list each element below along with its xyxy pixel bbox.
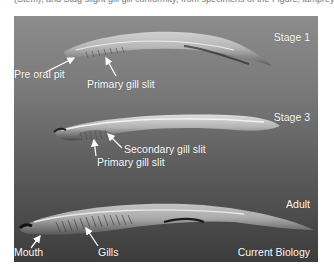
cutoff-caption-text: (Stem), and Stag slight gill gill confor…	[14, 0, 334, 4]
arrow-primary-gill-slit-1	[106, 58, 116, 76]
adult-label: Adult	[286, 198, 310, 210]
arrow-secondary-gill-slit	[108, 134, 122, 148]
arrow-primary-gill-slit-3	[94, 140, 96, 156]
stage-1-label: Stage 1	[274, 31, 310, 43]
primary-gill-slit-label-stage3: Primary gill slit	[97, 156, 165, 168]
lamprey-illustrations	[14, 16, 318, 262]
adult-lamprey	[20, 204, 314, 248]
gills-label: Gills	[98, 246, 118, 258]
pre-oral-pit-label: Pre oral pit	[14, 68, 65, 80]
mouth-label: Mouth	[14, 246, 43, 258]
stage-3-label: Stage 3	[274, 111, 310, 123]
stage1-larva	[46, 32, 272, 76]
journal-credit: Current Biology	[238, 246, 310, 258]
lamprey-development-figure: Stage 1 Stage 3 Adult Pre oral pit Prima…	[14, 16, 318, 262]
secondary-gill-slit-label: Secondary gill slit	[124, 143, 206, 155]
primary-gill-slit-label-stage1: Primary gill slit	[87, 78, 155, 90]
